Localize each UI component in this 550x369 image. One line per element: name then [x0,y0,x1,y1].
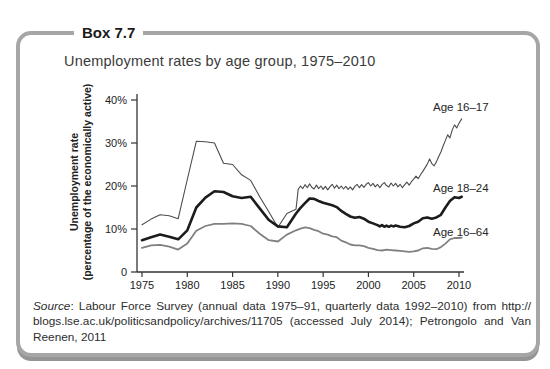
box-label: Box 7.7 [74,22,143,43]
series-label-age-16-64: Age 16–64 [433,226,489,239]
x-tick-label: 1995 [311,279,335,290]
y-tick-label: 40% [105,94,127,106]
source-line-2: blogs.lse.ac.uk/politicsandpolicy/archiv… [33,314,531,329]
x-tick-label: 2000 [356,279,380,290]
source-line-3: Reenen, 2011 [33,330,531,345]
chart-series [142,119,462,252]
y-tick-label: 10% [105,223,127,235]
line-chart: 010%20%30%40%197519801985199019952000200… [50,88,480,290]
source-note: Source: Labour Force Survey (annual data… [33,299,531,345]
x-tick-label: 1990 [266,279,290,290]
axis-ticks: 010%20%30%40%197519801985199019952000200… [105,94,471,290]
chart-title: Unemployment rates by age group, 1975–20… [64,53,376,69]
line-age-16-17 [142,119,462,227]
x-tick-label: 1985 [220,279,244,290]
figure-page: Box 7.7 Unemployment rates by age group,… [0,0,550,369]
x-tick-label: 1980 [175,279,199,290]
y-tick-label: 30% [105,137,127,149]
line-age-18-24 [142,191,462,240]
series-label-age-16-17: Age 16–17 [433,101,489,114]
y-tick-label: 20% [105,180,127,192]
y-tick-label: 0 [121,266,127,278]
line-age-16-64 [142,223,462,251]
source-word-italic: Source [33,299,70,313]
series-label-age-18-24: Age 18–24 [433,182,489,195]
source-line-1: Source: Labour Force Survey (annual data… [33,299,531,314]
x-tick-label: 2005 [401,279,425,290]
x-tick-label: 1975 [130,279,154,290]
x-tick-label: 2010 [447,279,471,290]
